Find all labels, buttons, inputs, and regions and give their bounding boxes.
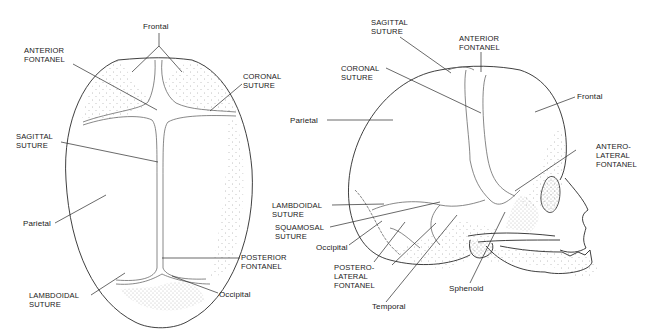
top-view-skull	[66, 58, 253, 328]
label-top-sagittal-suture: SAGITTAL SUTURE	[16, 132, 53, 150]
label-top-occipital: Occipital	[219, 290, 251, 299]
label-side-temporal: Temporal	[372, 302, 406, 311]
label-side-lambdoidal-suture: LAMBDOIDAL SUTURE	[272, 201, 322, 219]
label-top-parietal: Parietal	[23, 219, 51, 228]
label-side-occipital: Occipital	[316, 243, 348, 252]
label-side-anterolateral-fontanel: ANTERO- LATERAL FONTANEL	[596, 142, 637, 169]
skull-drawings	[0, 0, 663, 333]
label-side-anterior-fontanel: ANTERIOR FONTANEL	[459, 34, 500, 52]
label-top-anterior-fontanel: ANTERIOR FONTANEL	[24, 46, 65, 64]
label-side-sphenoid: Sphenoid	[449, 284, 484, 293]
infant-skull-diagram: Frontal ANTERIOR FONTANEL CORONAL SUTURE…	[0, 0, 663, 333]
label-top-coronal-suture: CORONAL SUTURE	[243, 72, 281, 90]
label-top-posterior-fontanel: POSTERIOR FONTANEL	[241, 253, 287, 271]
label-side-posterolateral-fontanel: POSTERO- LATERAL FONTANEL	[334, 263, 375, 290]
label-side-frontal: Frontal	[577, 92, 603, 101]
label-side-sagittal-suture: SAGITTAL SUTURE	[371, 18, 408, 36]
label-side-squamosal-suture: SQUAMOSAL SUTURE	[275, 223, 324, 241]
label-side-coronal-suture: CORONAL SUTURE	[341, 64, 379, 82]
label-top-frontal: Frontal	[143, 22, 169, 31]
label-top-lambdoidal-suture: LAMBDOIDAL SUTURE	[29, 291, 79, 309]
label-side-parietal: Parietal	[290, 116, 318, 125]
